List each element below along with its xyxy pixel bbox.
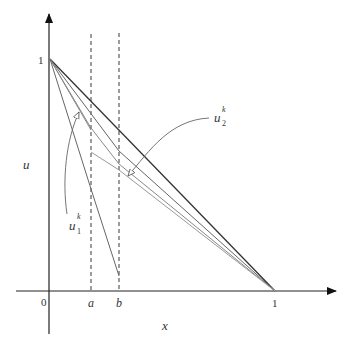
u2-label: u k 2 [214, 105, 226, 128]
steep-line-to-a [50, 59, 91, 189]
x-axis-label: x [161, 318, 168, 333]
svg-text:u: u [214, 110, 221, 125]
linear-solution-line [50, 59, 275, 291]
diagram-canvas: 1 u 0 a b 1 x u k 1 u k 2 [0, 0, 351, 348]
x-tick-one-label: 1 [272, 297, 278, 309]
svg-text:k: k [77, 212, 81, 221]
svg-text:k: k [222, 105, 226, 114]
svg-text:2: 2 [222, 119, 226, 128]
x-tick-b-label: b [116, 296, 122, 310]
y-tick-one-label: 1 [38, 54, 44, 66]
origin-label: 0 [41, 296, 47, 308]
steep-line-a-to-b [91, 189, 119, 276]
y-axis-label: u [23, 157, 30, 172]
svg-text:u: u [69, 218, 76, 233]
iterate-line-3 [91, 152, 275, 291]
svg-text:1: 1 [77, 227, 81, 236]
x-tick-a-label: a [88, 296, 94, 310]
u1-label: u k 1 [69, 212, 81, 236]
u2-pointer-curve [128, 118, 209, 176]
